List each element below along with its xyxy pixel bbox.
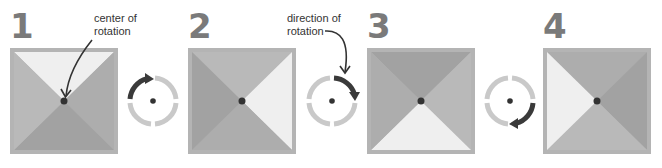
clockwise-arrow-icon [125, 73, 181, 129]
rotation-dial-1 [125, 73, 181, 129]
square-step-3 [367, 48, 475, 154]
direction-label-line1: direction of [287, 12, 341, 25]
center-label-line1: center of [94, 12, 137, 25]
step-number-1: 1 [10, 9, 33, 43]
center-dot [61, 98, 68, 105]
step-number-4: 4 [543, 9, 566, 43]
step-number-3: 3 [367, 9, 390, 43]
rotation-dial-3 [482, 73, 538, 129]
direction-of-rotation-label: direction of rotation [287, 12, 341, 38]
square-step-2 [188, 48, 296, 154]
rotation-diagram: 1 2 3 4 center of rotation direction of … [0, 0, 662, 168]
center-of-rotation-label: center of rotation [94, 12, 137, 38]
step-number-2: 2 [188, 9, 211, 43]
square-step-1 [10, 48, 118, 154]
clockwise-arrow-icon [482, 73, 538, 129]
clockwise-arrow-icon [304, 73, 360, 129]
square-step-4 [543, 48, 651, 154]
direction-label-line2: rotation [287, 25, 341, 38]
center-label-line2: rotation [94, 25, 137, 38]
rotation-dial-2 [304, 73, 360, 129]
